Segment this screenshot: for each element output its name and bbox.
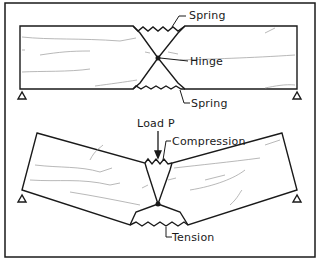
loaded-left-block xyxy=(22,133,158,225)
supports-top xyxy=(18,92,301,99)
load-arrow-icon xyxy=(155,131,161,158)
spring-bottom-label: Spring xyxy=(191,98,228,109)
spring-bottom xyxy=(133,86,185,89)
spring-top xyxy=(133,26,185,31)
support-left-bottom xyxy=(18,195,26,202)
tension-label: Tension xyxy=(172,232,214,243)
support-left-top xyxy=(18,92,26,99)
loaded-beam xyxy=(22,133,297,226)
compression-label: Compression xyxy=(172,136,246,147)
hinge-label: Hinge xyxy=(190,56,223,67)
beam-right-block xyxy=(158,26,297,89)
load-label: Load P xyxy=(137,118,175,129)
diagram-canvas xyxy=(0,0,320,261)
tension-spring xyxy=(130,222,188,226)
hinge-point xyxy=(156,56,160,60)
hinge-point-loaded xyxy=(156,202,160,206)
support-right-bottom xyxy=(293,195,301,202)
support-right-top xyxy=(293,92,301,99)
compression-spring xyxy=(145,159,172,164)
spring-top-label: Spring xyxy=(189,10,226,21)
beam-left-block xyxy=(20,26,158,89)
beam-hinge-diagram: Spring Hinge Spring Load P Compression T… xyxy=(0,0,320,261)
